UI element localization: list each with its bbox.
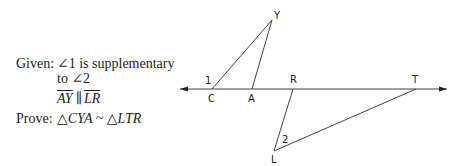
arrow-left-icon	[180, 87, 188, 92]
label-r: R	[290, 74, 297, 85]
segment-lt	[274, 89, 416, 151]
arrow-right-icon	[439, 87, 447, 92]
label-t: T	[411, 74, 419, 85]
segment-ay-line	[252, 20, 272, 89]
segment-cy	[212, 20, 272, 89]
label-a: A	[248, 93, 255, 104]
label-c: C	[208, 93, 215, 104]
angle-2-label: 2	[282, 134, 288, 145]
geometry-problem: Given: ∠1 is supplementary to ∠2 AY∥LR P…	[0, 0, 457, 166]
label-l: L	[271, 154, 277, 165]
angle-1-label: 1	[205, 75, 211, 86]
label-y: Y	[273, 10, 281, 21]
geometry-diagram: Y C A R T L 1 2	[0, 0, 457, 166]
